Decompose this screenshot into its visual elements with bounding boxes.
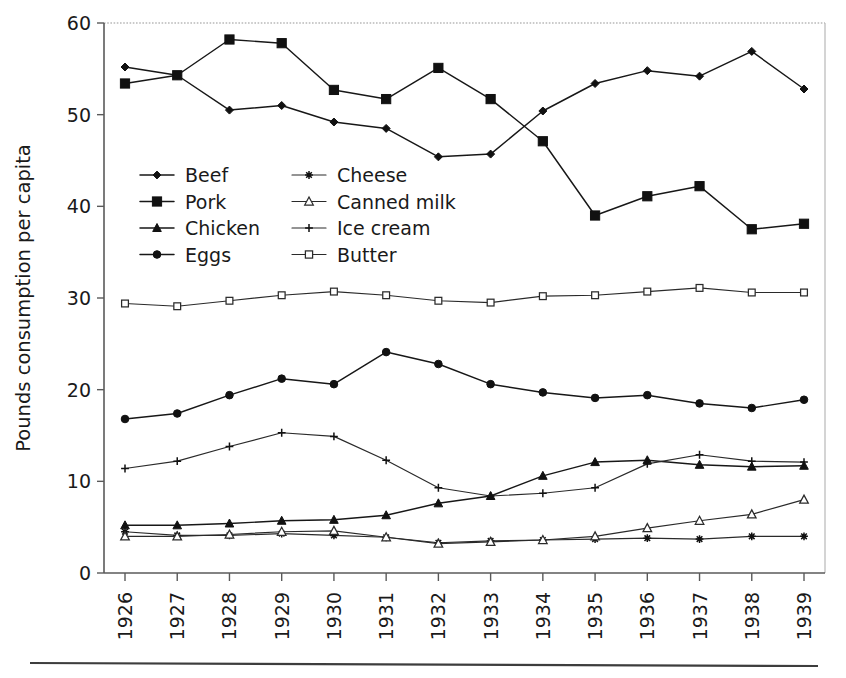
marker-diamond [696, 72, 704, 80]
marker-circle-filled [121, 415, 129, 423]
legend-label: Canned milk [337, 191, 456, 213]
x-tick-label: 1939 [793, 592, 815, 640]
x-tick-label: 1928 [218, 592, 240, 640]
marker-square-open [801, 289, 808, 296]
x-tick-label: 1927 [166, 592, 188, 640]
marker-plus [696, 451, 704, 459]
consumption-line-chart: Pounds consumption per capita 0102030405… [0, 0, 846, 678]
legend-label: Pork [185, 191, 226, 213]
marker-plus [748, 457, 756, 465]
marker-diamond [382, 124, 390, 132]
marker-asterisk [696, 535, 704, 543]
marker-asterisk [800, 532, 808, 540]
marker-square-open [539, 293, 546, 300]
marker-square-filled [538, 137, 547, 146]
marker-diamond [225, 106, 233, 114]
marker-square-filled [225, 35, 234, 44]
legend-label: Chicken [185, 217, 260, 239]
marker-plus [330, 433, 338, 441]
y-tick-label: 60 [67, 12, 91, 34]
marker-circle-filled [435, 360, 443, 368]
marker-circle-filled [278, 375, 286, 383]
marker-plus [173, 457, 181, 465]
marker-diamond [434, 153, 442, 161]
marker-circle-filled [644, 391, 652, 399]
y-tick-label: 40 [67, 195, 91, 217]
marker-square-filled [590, 211, 599, 220]
legend-item-canned-milk[interactable]: Canned milk [292, 191, 456, 213]
legend-label: Eggs [185, 244, 231, 266]
marker-diamond [278, 102, 286, 110]
x-tick-label: 1930 [323, 592, 345, 640]
marker-diamond [153, 171, 161, 179]
marker-plus [121, 465, 129, 473]
marker-square-open [383, 292, 390, 299]
marker-diamond [591, 80, 599, 88]
marker-plus [539, 489, 547, 497]
chart-legend: BeefCheesePorkCanned milkChickenIce crea… [140, 164, 456, 266]
marker-plus [800, 458, 808, 466]
x-tick-label: 1936 [636, 592, 658, 640]
marker-circle-filled [591, 394, 599, 402]
marker-plus [305, 224, 313, 232]
marker-square-filled [799, 219, 808, 228]
marker-square-filled [173, 71, 182, 80]
marker-square-open [592, 292, 599, 299]
chart-canvas: Pounds consumption per capita 0102030405… [0, 0, 846, 678]
marker-square-open [644, 288, 651, 295]
y-tick-label: 10 [67, 470, 91, 492]
legend-item-pork[interactable]: Pork [140, 191, 226, 213]
marker-circle-filled [487, 380, 495, 388]
marker-square-filled [329, 85, 338, 94]
series-path [125, 352, 804, 419]
footer-divider [30, 663, 818, 666]
legend-item-butter[interactable]: Butter [292, 244, 397, 266]
series-eggs [121, 348, 808, 423]
marker-square-filled [486, 94, 495, 103]
legend-label: Beef [185, 164, 229, 186]
y-axis-ticks: 0102030405060 [67, 12, 104, 584]
marker-square-open [696, 285, 703, 292]
y-tick-label: 20 [67, 379, 91, 401]
marker-circle-filled [800, 396, 808, 404]
x-tick-label: 1934 [532, 592, 554, 640]
y-axis-title: Pounds consumption per capita [12, 144, 35, 452]
x-tick-label: 1938 [741, 592, 763, 640]
legend-item-beef[interactable]: Beef [140, 164, 229, 186]
marker-square-open [435, 297, 442, 304]
marker-square-open [305, 251, 312, 258]
legend-item-chicken[interactable]: Chicken [140, 217, 260, 239]
marker-square-filled [747, 225, 756, 234]
marker-circle-filled [226, 391, 234, 399]
marker-square-filled [695, 182, 704, 191]
marker-asterisk [643, 534, 651, 542]
legend-label: Butter [337, 244, 397, 266]
marker-diamond [330, 118, 338, 126]
legend-item-ice-cream[interactable]: Ice cream [292, 217, 430, 239]
marker-circle-filled [382, 348, 390, 356]
marker-square-filled [277, 39, 286, 48]
series-path [125, 460, 804, 525]
series-beef [121, 47, 808, 160]
marker-plus [434, 484, 442, 492]
x-tick-label: 1931 [375, 592, 397, 640]
marker-square-open [748, 289, 755, 296]
marker-asterisk [305, 171, 313, 179]
legend-item-cheese[interactable]: Cheese [292, 164, 407, 186]
legend-item-eggs[interactable]: Eggs [140, 244, 231, 266]
x-tick-label: 1932 [427, 592, 449, 640]
legend-label: Ice cream [337, 217, 430, 239]
series-path [125, 40, 804, 230]
x-tick-label: 1926 [114, 592, 136, 640]
marker-circle-filled [153, 251, 161, 259]
marker-plus [591, 484, 599, 492]
plot-frame [104, 23, 825, 573]
x-tick-label: 1937 [689, 592, 711, 640]
marker-square-filled [120, 79, 129, 88]
marker-square-open [331, 288, 338, 295]
marker-diamond [643, 67, 651, 75]
marker-square-filled [643, 192, 652, 201]
marker-circle-filled [696, 400, 704, 408]
marker-circle-filled [330, 380, 338, 388]
y-tick-label: 50 [67, 104, 91, 126]
